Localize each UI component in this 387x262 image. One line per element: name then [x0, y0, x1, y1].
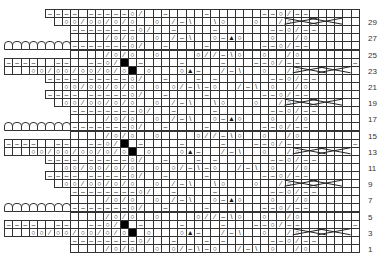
row-number: 15 [368, 132, 387, 141]
row-number: 21 [368, 83, 387, 92]
row-number: 7 [368, 196, 387, 205]
row-number: 5 [368, 213, 387, 222]
row-number: 3 [368, 229, 387, 238]
row-number: 29 [368, 18, 387, 27]
row-number: 27 [368, 34, 387, 43]
row-number: 9 [368, 180, 387, 189]
row-number: 25 [368, 51, 387, 60]
row-number: 23 [368, 67, 387, 76]
row-number: 13 [368, 148, 387, 157]
cable-cross-icon [0, 0, 387, 262]
row-number: 19 [368, 99, 387, 108]
row-number: 11 [368, 164, 387, 173]
row-number: 17 [368, 115, 387, 124]
row-number: 1 [368, 245, 387, 254]
knitting-chart: –––––––––○⁄––––○⁄––○○⁄○○⁄○⁄○○⁄–\\○○⁄○–––… [0, 0, 387, 262]
